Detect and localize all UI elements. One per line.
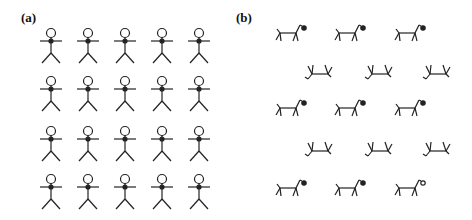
stick-figure [151,127,173,162]
inverted-stick-dog [365,142,392,156]
stick-figure [151,77,173,112]
stick-figure [114,175,136,210]
stick-dog [335,180,365,196]
stick-figure [188,77,210,112]
stick-figure [188,29,210,64]
stick-figure [40,29,62,64]
inverted-stick-dog [305,142,332,156]
stick-figure [114,77,136,112]
stick-figure [151,175,173,210]
stick-figure [114,29,136,64]
stick-figure [188,175,210,210]
stick-figure [151,29,173,64]
inverted-stick-dog [423,142,450,156]
stick-dog [395,180,425,196]
stick-dog [395,100,425,116]
stick-figure [40,175,62,210]
stick-figure [188,127,210,162]
stick-figure [77,77,99,112]
stick-figure [40,127,62,162]
stick-dog [335,25,365,41]
stick-figure [114,127,136,162]
stick-dog [276,100,306,116]
inverted-stick-dog [365,65,392,79]
stick-figure [77,175,99,210]
inverted-stick-dog [305,65,332,79]
figure-canvas [0,0,472,220]
stick-dog [335,100,365,116]
stick-dog [276,25,306,41]
stick-dog [395,25,425,41]
stick-figure [77,29,99,64]
stick-figure [40,77,62,112]
stick-figure [77,127,99,162]
inverted-stick-dog [423,65,450,79]
stick-dog [276,180,306,196]
